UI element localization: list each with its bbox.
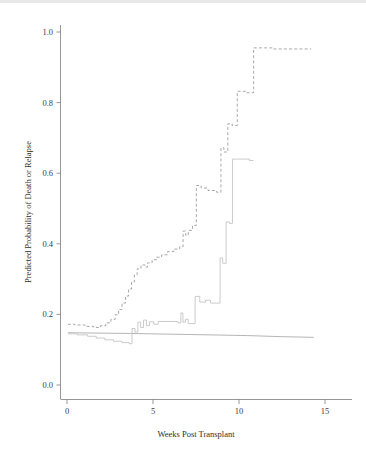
- y-tick-label-4: 0.8: [42, 98, 53, 108]
- y-tick-label-2: 0.4: [42, 239, 53, 249]
- figure-root: 0.0 0.2 0.4 0.6 0.8 1.0 Predicted Probab…: [0, 0, 366, 456]
- series-lower-confidence-band: [68, 159, 254, 344]
- x-axis-group: 0 5 10 15 Weeks Post Transplant: [61, 400, 353, 440]
- y-tick-label-3: 0.6: [42, 168, 53, 178]
- x-tick-label-1: 5: [151, 406, 155, 416]
- y-tick-label-0: 0.0: [42, 380, 53, 390]
- x-tick-label-2: 10: [235, 406, 244, 416]
- x-tick-marks: [67, 400, 325, 405]
- series-upper-confidence-band: [68, 48, 311, 328]
- y-axis-group: 0.0 0.2 0.4 0.6 0.8 1.0 Predicted Probab…: [23, 25, 61, 399]
- x-tick-label-3: 15: [321, 406, 330, 416]
- y-axis-title: Predicted Probability of Death or Relaps…: [23, 141, 33, 283]
- data-series-layer: [68, 48, 314, 344]
- y-tick-label-5: 1.0: [42, 27, 53, 37]
- chart-canvas: 0.0 0.2 0.4 0.6 0.8 1.0 Predicted Probab…: [0, 0, 366, 456]
- x-axis-title: Weeks Post Transplant: [157, 429, 235, 439]
- y-tick-marks: [57, 32, 61, 385]
- x-tick-label-0: 0: [65, 406, 69, 416]
- y-tick-label-1: 0.2: [42, 309, 53, 319]
- series-point-estimate-line: [68, 333, 314, 338]
